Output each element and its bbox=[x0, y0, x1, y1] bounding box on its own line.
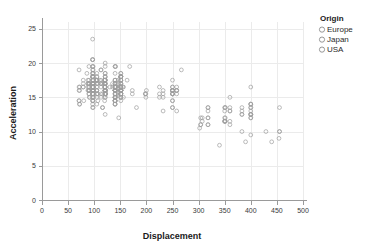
data-point bbox=[270, 140, 274, 144]
data-point bbox=[125, 78, 129, 82]
data-point bbox=[101, 106, 105, 110]
data-point bbox=[108, 85, 112, 89]
data-point bbox=[113, 71, 117, 75]
x-tick-label: 500 bbox=[297, 207, 309, 214]
data-point bbox=[158, 85, 162, 89]
y-axis-title: Acceleration bbox=[8, 86, 18, 140]
legend-marker-japan[interactable] bbox=[319, 37, 324, 42]
data-points bbox=[77, 37, 281, 147]
y-axis-ticks: 0510152025 bbox=[28, 25, 42, 203]
x-tick-label: 150 bbox=[114, 207, 126, 214]
data-point bbox=[135, 106, 139, 110]
x-axis-ticks: 050100150200250300350400450500 bbox=[40, 201, 309, 215]
chart-canvas: 050100150200250300350400450500 051015202… bbox=[0, 0, 367, 246]
y-tick-label: 15 bbox=[28, 94, 36, 101]
y-tick-label: 0 bbox=[32, 197, 36, 204]
legend-label-japan[interactable]: Japan bbox=[327, 35, 349, 44]
data-point bbox=[206, 116, 210, 120]
x-tick-label: 50 bbox=[64, 207, 72, 214]
y-tick-label: 10 bbox=[28, 128, 36, 135]
data-point bbox=[82, 99, 86, 103]
scatter-plot-figure: 050100150200250300350400450500 051015202… bbox=[0, 0, 367, 246]
legend-label-usa[interactable]: USA bbox=[327, 45, 344, 54]
data-point bbox=[95, 102, 99, 106]
data-point bbox=[91, 58, 95, 62]
axis-lines bbox=[43, 18, 308, 201]
legend-title: Origin bbox=[320, 14, 344, 23]
y-tick-label: 5 bbox=[32, 162, 36, 169]
data-point bbox=[206, 123, 210, 127]
x-tick-label: 400 bbox=[245, 207, 257, 214]
data-point bbox=[161, 109, 165, 113]
x-tick-label: 300 bbox=[193, 207, 205, 214]
gridlines bbox=[42, 22, 304, 200]
legend: Origin EuropeJapanUSA bbox=[319, 14, 353, 54]
y-tick-label: 20 bbox=[28, 60, 36, 67]
legend-marker-europe[interactable] bbox=[319, 27, 324, 32]
y-tick-label: 25 bbox=[28, 25, 36, 32]
legend-marker-usa[interactable] bbox=[319, 47, 324, 52]
data-point bbox=[179, 68, 183, 72]
data-point bbox=[128, 65, 132, 69]
x-tick-label: 100 bbox=[88, 207, 100, 214]
data-point bbox=[91, 37, 95, 41]
x-tick-label: 200 bbox=[141, 207, 153, 214]
legend-label-europe[interactable]: Europe bbox=[327, 25, 353, 34]
x-tick-label: 250 bbox=[167, 207, 179, 214]
data-point bbox=[117, 116, 121, 120]
data-point bbox=[87, 65, 91, 69]
x-axis-title: Displacement bbox=[143, 231, 202, 241]
data-point bbox=[218, 143, 222, 147]
x-tick-label: 0 bbox=[40, 207, 44, 214]
data-point bbox=[85, 71, 89, 75]
data-point bbox=[278, 106, 282, 110]
data-point bbox=[175, 109, 179, 113]
x-tick-label: 450 bbox=[271, 207, 283, 214]
data-point bbox=[77, 68, 81, 72]
x-tick-label: 350 bbox=[219, 207, 231, 214]
data-point bbox=[99, 68, 103, 72]
data-point bbox=[244, 140, 248, 144]
data-point bbox=[103, 113, 107, 117]
